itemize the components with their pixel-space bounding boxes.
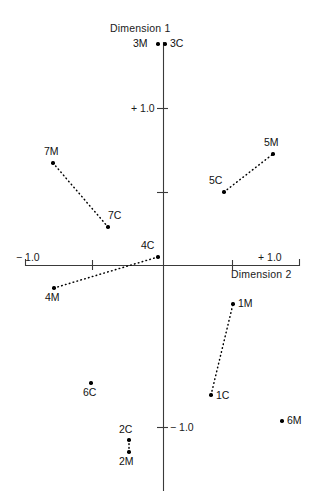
point-label-7C: 7C — [108, 209, 121, 221]
point-label-4M: 4M — [45, 291, 60, 303]
point-label-1C: 1C — [216, 389, 229, 401]
point-label-2C: 2C — [119, 423, 132, 435]
connector-5C-5M — [224, 154, 273, 192]
data-point-7C — [106, 225, 109, 228]
connector-1C-1M — [211, 304, 233, 395]
y-tick-label-minus-one: − 1.0 — [170, 421, 194, 433]
point-label-5C: 5C — [209, 174, 222, 186]
data-point-6M — [280, 419, 283, 422]
point-label-6M: 6M — [287, 414, 302, 426]
data-point-7M — [51, 161, 54, 164]
point-label-1M: 1M — [238, 297, 253, 309]
x-tick-label-minus-one: − 1.0 — [16, 251, 40, 263]
data-point-3M — [156, 42, 159, 45]
point-label-3M: 3M — [133, 37, 148, 49]
scatter-plot-canvas — [0, 0, 326, 496]
point-label-6C: 6C — [83, 386, 96, 398]
data-point-5M — [271, 152, 274, 155]
y-axis-title: Dimension 1 — [110, 22, 171, 34]
point-label-3C: 3C — [170, 37, 183, 49]
data-point-1C — [209, 393, 212, 396]
x-tick-label-plus-one: + 1.0 — [258, 251, 282, 263]
data-point-4M — [52, 286, 55, 289]
y-tick-label-plus-one: + 1.0 — [131, 102, 155, 114]
data-point-2M — [127, 450, 130, 453]
data-point-5C — [222, 190, 225, 193]
data-point-2C — [127, 438, 130, 441]
data-point-3C — [163, 42, 166, 45]
data-point-4C — [156, 255, 159, 258]
point-label-2M: 2M — [119, 455, 134, 467]
point-label-5M: 5M — [264, 136, 279, 148]
data-point-6C — [89, 381, 92, 384]
data-point-1M — [231, 302, 234, 305]
connector-7M-7C — [53, 163, 108, 227]
point-label-7M: 7M — [44, 145, 59, 157]
x-axis-title: Dimension 2 — [231, 268, 292, 280]
point-label-4C: 4C — [141, 239, 154, 251]
connector-4M-4C — [54, 257, 158, 288]
